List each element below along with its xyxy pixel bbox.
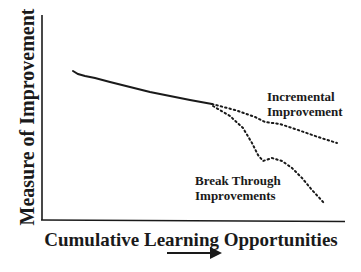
incremental-label-line2: Improvement: [267, 104, 343, 119]
x-axis-label: Cumulative Learning Opportunities: [44, 229, 337, 250]
baseline-curve: [73, 71, 212, 104]
breakthrough-label-line2: Improvements: [195, 188, 276, 203]
breakthrough-label-line1: Break Through: [195, 173, 281, 188]
incremental-label-line1: Incremental: [267, 89, 335, 104]
y-axis-label: Measure of Improvement: [16, 8, 39, 225]
improvement-diagram: Measure of Improvement Incremental Impro…: [0, 0, 361, 272]
x-axis: [41, 220, 345, 222]
